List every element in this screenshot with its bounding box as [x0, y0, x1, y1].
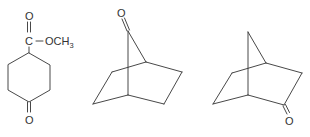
ester-group-label: OCH3 [45, 35, 74, 50]
ketone-double-bond-b [125, 18, 130, 30]
bridge-to-right-bridgehead [128, 31, 146, 62]
ketone-double-bond-a [122, 19, 127, 31]
left-bottom-bond [213, 95, 248, 104]
right-bottom-bond [248, 95, 284, 105]
left-bottom-bond [93, 95, 128, 104]
back-bond-left [232, 63, 266, 73]
cyclohexane-ring [8, 53, 50, 102]
ketone-oxygen-label: O [117, 7, 126, 19]
carbonyl-oxygen-label: O [25, 10, 34, 22]
back-bond-left [112, 62, 146, 72]
right-top-bond [146, 62, 182, 72]
left-ring-bond [213, 73, 232, 104]
ketone-oxygen-label: O [25, 114, 34, 126]
right-ring-bond [164, 72, 182, 104]
right-ring-bond [284, 73, 302, 105]
right-bottom-bond [128, 95, 164, 104]
right-top-bond [266, 63, 302, 73]
structure-methyl-4-oxocyclohexanecarboxylate: O C OCH3 O [8, 10, 74, 126]
chemical-structures-figure: O C OCH3 O O O [0, 0, 310, 137]
carbonyl-carbon-label: C [25, 35, 33, 47]
ketone-oxygen-label: O [285, 115, 294, 127]
bridge-to-right-bridgehead [248, 32, 266, 63]
structure-7-norbornanone: O [93, 7, 182, 104]
left-ring-bond [93, 72, 112, 104]
structure-2-norbornanone: O [213, 32, 302, 127]
